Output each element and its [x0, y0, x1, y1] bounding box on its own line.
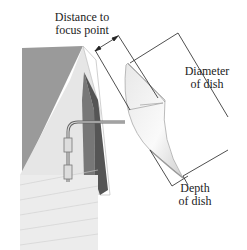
label-line: of dish — [170, 195, 220, 208]
dish-diagram — [0, 0, 247, 250]
label-depth: Depth of dish — [170, 182, 220, 208]
label-line: of dish — [172, 78, 242, 91]
label-diameter: Diameter of dish — [172, 65, 242, 91]
label-line: focus point — [42, 24, 122, 37]
label-focus-distance: Distance to focus point — [42, 11, 122, 37]
